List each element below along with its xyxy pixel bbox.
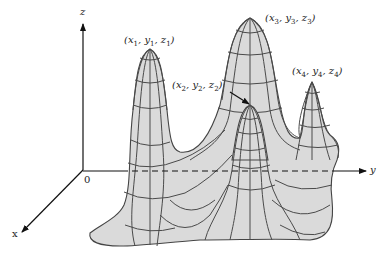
point-2-label: (x2, y2, z2) — [172, 79, 223, 93]
x-axis — [22, 170, 83, 232]
surface-svg — [0, 0, 390, 255]
point-3-label: (x3, y3, z3) — [265, 12, 316, 26]
origin-label: 0 — [84, 174, 90, 185]
surface-diagram: z y x 0 (x1, y1, z1) (x2, y2, z2) (x3, y… — [0, 0, 390, 255]
z-axis-label: z — [80, 6, 85, 17]
x-axis-label: x — [12, 228, 18, 239]
surface — [90, 18, 339, 246]
y-axis-label: y — [370, 164, 376, 175]
point-4-label: (x4, y4, z4) — [292, 65, 343, 79]
point-1-label: (x1, y1, z1) — [124, 34, 175, 48]
